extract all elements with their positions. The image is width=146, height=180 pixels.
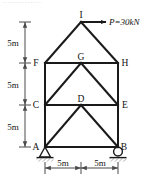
dim-label-vertical-top: 5m xyxy=(7,38,19,48)
node-label-B: B xyxy=(121,142,127,152)
node-label-H: H xyxy=(122,58,129,68)
member-C-G xyxy=(45,63,81,105)
node-label-E: E xyxy=(122,100,128,110)
dim-label-vertical-bottom: 5m xyxy=(7,122,19,132)
member-G-E xyxy=(81,63,118,105)
dim-label-horizontal-right: 5m xyxy=(94,158,106,168)
dim-label-vertical-middle: 5m xyxy=(7,80,19,90)
node-label-A: A xyxy=(33,142,40,152)
load-label: P=30kN xyxy=(108,17,141,27)
vertical-dimension-chain xyxy=(19,22,31,147)
load-label-group: P=30kN xyxy=(108,17,141,27)
horizontal-dimension-chain xyxy=(45,162,118,174)
node-label-D: D xyxy=(78,94,85,104)
dim-label-horizontal-left: 5m xyxy=(57,158,69,168)
node-label-F: F xyxy=(33,58,38,68)
node-labels: A B C D E F G H I xyxy=(33,10,129,152)
node-label-G: G xyxy=(78,52,85,62)
member-F-I xyxy=(45,22,81,63)
truss-figure: ·············· xyxy=(0,0,146,180)
node-label-I: I xyxy=(79,10,82,20)
member-I-H xyxy=(81,22,118,63)
node-label-C: C xyxy=(33,100,39,110)
roller-support-hatching xyxy=(110,158,127,161)
member-A-D xyxy=(45,105,81,147)
dimension-labels: 5m 5m 5m 5m 5m xyxy=(7,38,106,168)
truss-diagram-canvas: A B C D E F G H I 5m 5m 5m 5m 5m P=30kN xyxy=(0,0,146,180)
member-D-B xyxy=(81,105,118,147)
pin-support-hatching xyxy=(37,158,54,161)
